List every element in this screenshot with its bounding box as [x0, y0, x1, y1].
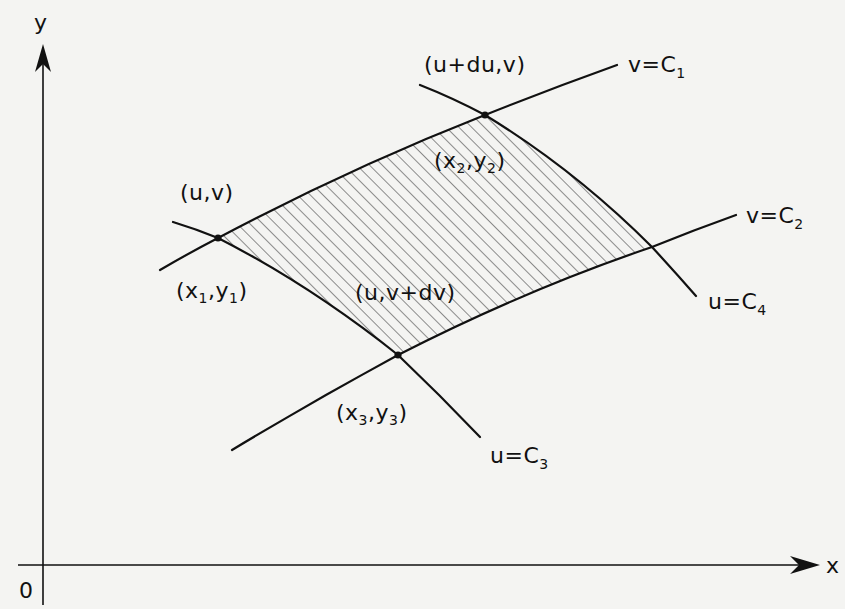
label-u-c3: u=C3 — [490, 443, 549, 472]
point-p2-dot — [481, 111, 488, 118]
label-p3-uv: (u,v+dv) — [355, 280, 456, 305]
curvilinear-diagram: y x 0 v=C1 v=C2 u=C3 u=C4 (u,v) (u+du,v)… — [0, 0, 845, 609]
origin-label: 0 — [19, 578, 34, 603]
label-u-c4: u=C4 — [708, 289, 767, 318]
x-axis-label: x — [826, 553, 840, 578]
y-axis-label: y — [34, 10, 48, 35]
label-p1-xy: (x1,y1) — [176, 278, 248, 306]
label-p1-uv: (u,v) — [180, 180, 234, 205]
point-p1-dot — [214, 234, 221, 241]
label-v-c1: v=C1 — [628, 52, 686, 81]
label-p3-xy: (x3,y3) — [336, 400, 408, 428]
point-p3-dot — [394, 351, 401, 358]
label-v-c2: v=C2 — [746, 203, 804, 232]
label-p2-uv: (u+du,v) — [424, 52, 525, 77]
